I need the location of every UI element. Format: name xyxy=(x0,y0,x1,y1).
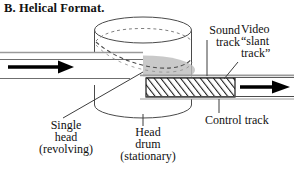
label-sound-track: Sound track xyxy=(196,24,240,48)
helical-format-figure: B. Helical Format. Sound track Video “sl… xyxy=(0,0,294,172)
label-single-head: Single head (revolving) xyxy=(30,119,102,156)
label-head-drum: Head drum (stationary) xyxy=(108,126,188,163)
slant-track-hatching xyxy=(146,78,235,97)
label-video-slant-track: Video “slant track” xyxy=(241,23,270,60)
figure-title: B. Helical Format. xyxy=(4,2,104,15)
label-control-track: Control track xyxy=(205,114,269,126)
drum-top-ellipse xyxy=(95,17,192,43)
